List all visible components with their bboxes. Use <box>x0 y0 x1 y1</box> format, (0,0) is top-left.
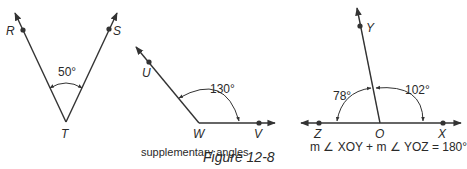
label-T: T <box>61 128 68 140</box>
point-R <box>20 27 25 32</box>
angle-arc-50 <box>50 83 82 88</box>
point-V <box>256 120 261 125</box>
equation: m ∠ XOY + m ∠ YOZ = 180° <box>310 141 467 153</box>
ray-WU <box>136 47 199 123</box>
label-W: W <box>193 128 204 140</box>
label-Y: Y <box>366 22 374 34</box>
point-S <box>106 26 111 31</box>
label-S: S <box>113 25 121 37</box>
figure-title: Figure 12-8 <box>203 150 275 164</box>
point-U <box>146 59 151 64</box>
point-Y <box>357 23 362 28</box>
diagram-supplementary <box>301 8 461 126</box>
angle-value-130: 130° <box>210 83 235 95</box>
angle-value-102: 102° <box>405 84 430 96</box>
label-Z: Z <box>314 128 321 140</box>
angle-value-50: 50° <box>58 66 76 78</box>
angle-value-78: 78° <box>333 90 351 102</box>
label-O: O <box>375 128 384 140</box>
label-V: V <box>254 128 262 140</box>
label-R: R <box>6 25 15 37</box>
label-X: X <box>438 128 446 140</box>
point-X <box>440 120 445 125</box>
point-Z <box>316 120 321 125</box>
diagram-angle-UWV <box>136 47 275 126</box>
label-U: U <box>142 67 151 79</box>
